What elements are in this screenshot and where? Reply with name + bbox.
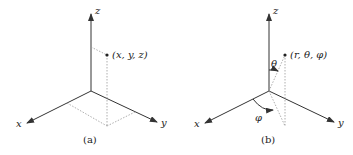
projection-line <box>269 91 285 126</box>
point-label: (x, y, z) <box>112 49 148 60</box>
x-axis-label: x <box>16 118 22 129</box>
z-axis-label: z <box>94 5 101 16</box>
y-axis <box>269 91 334 122</box>
theta-label: θ <box>271 58 277 69</box>
x-axis <box>27 91 91 123</box>
x-axis-label: x <box>194 118 200 129</box>
y-axis-label: y <box>337 117 344 128</box>
point-marker <box>105 53 108 56</box>
x-parallel-guide <box>67 103 107 126</box>
point-marker <box>283 53 286 56</box>
phi-arc <box>253 99 273 110</box>
caption-a: (a) <box>83 134 97 145</box>
coordinate-diagrams: z x y (x, y, z) (a) z x y (r, θ, φ) θ φ … <box>0 0 353 155</box>
figure-a-cartesian: z x y (x, y, z) (a) <box>16 5 167 145</box>
point-label: (r, θ, φ) <box>290 49 327 60</box>
z-axis-label: z <box>272 5 279 16</box>
z-projection-guide <box>91 47 107 55</box>
theta-arc <box>269 70 278 71</box>
figure-b-spherical: z x y (r, θ, φ) θ φ (b) <box>194 5 344 145</box>
y-parallel-guide <box>107 112 135 126</box>
caption-b: (b) <box>261 134 275 145</box>
y-axis-label: y <box>160 117 167 128</box>
phi-label: φ <box>255 112 262 123</box>
